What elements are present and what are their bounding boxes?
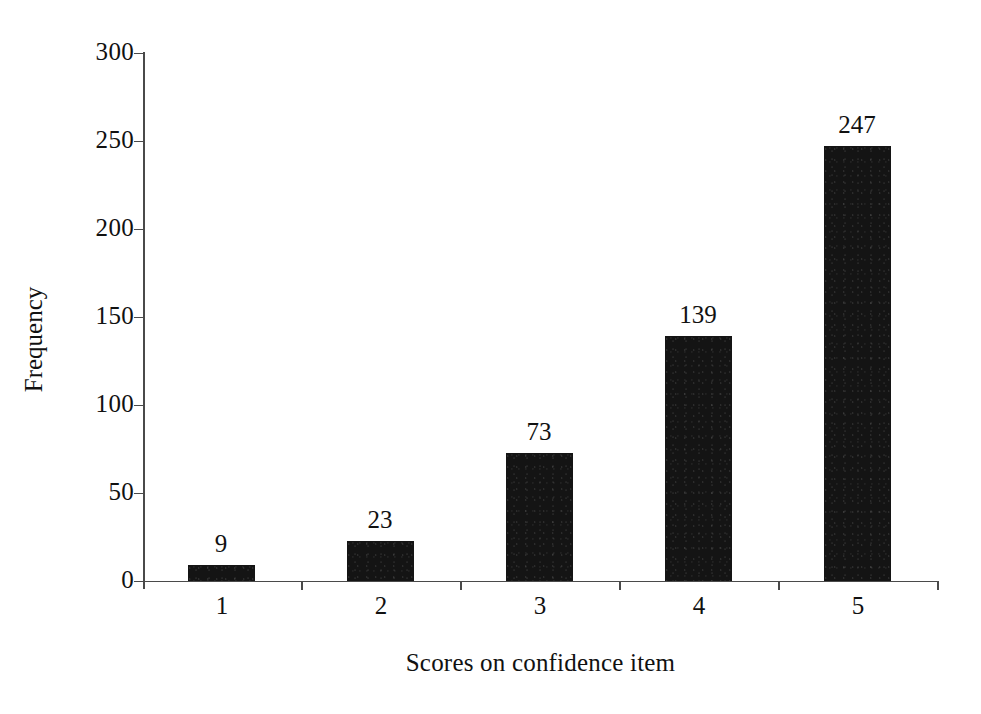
x-tick-label-3: 3 xyxy=(510,592,570,620)
y-tick-label-200: 200 xyxy=(78,215,134,240)
bar-value-label-4: 139 xyxy=(653,302,743,327)
x-axis-title: Scores on confidence item xyxy=(143,650,938,675)
y-tick-label-0: 0 xyxy=(78,567,134,592)
x-tick-mark-4 xyxy=(778,581,780,590)
bar-3 xyxy=(506,453,573,581)
bar-value-label-2: 23 xyxy=(335,507,425,532)
y-tick-label-100: 100 xyxy=(78,391,134,416)
bar-1 xyxy=(188,565,255,581)
bar-chart: Frequency 300 250 200 150 100 50 0 9 23 … xyxy=(0,0,981,714)
bar-value-label-3: 73 xyxy=(494,419,584,444)
bar-value-label-1: 9 xyxy=(176,531,266,556)
x-tick-label-4: 4 xyxy=(669,592,729,620)
bar-5 xyxy=(824,146,891,581)
y-tick-label-50: 50 xyxy=(78,479,134,504)
y-axis-title: Frequency xyxy=(21,220,46,460)
x-tick-label-2: 2 xyxy=(351,592,411,620)
y-tick-label-300: 300 xyxy=(78,39,134,64)
y-tick-label-150: 150 xyxy=(78,303,134,328)
x-tick-label-1: 1 xyxy=(192,592,252,620)
x-tick-mark-1 xyxy=(301,581,303,590)
bar-2 xyxy=(347,541,414,581)
bar-4 xyxy=(665,336,732,581)
x-tick-mark-2 xyxy=(460,581,462,590)
y-tick-label-250: 250 xyxy=(78,127,134,152)
x-tick-mark-5 xyxy=(937,581,939,590)
x-tick-label-5: 5 xyxy=(828,592,888,620)
y-axis-line xyxy=(143,52,145,589)
x-tick-mark-3 xyxy=(619,581,621,590)
bar-value-label-5: 247 xyxy=(812,112,902,137)
